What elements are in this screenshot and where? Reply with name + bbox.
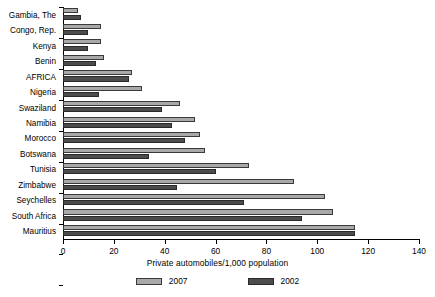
bar-2007: [63, 225, 355, 230]
bar-row: Kenya: [63, 38, 419, 53]
bar-row: Mauritius: [63, 224, 419, 239]
x-axis-tick-label: 100: [310, 246, 324, 256]
category-label: Mauritius: [23, 227, 56, 236]
category-label: Morocco: [25, 134, 56, 143]
bar-2002: [63, 92, 99, 97]
category-label: Namibia: [26, 118, 56, 127]
category-label: Nigeria: [30, 88, 56, 97]
bar-2002: [63, 30, 88, 35]
category-label: Zimbabwe: [18, 180, 56, 189]
bar-row: Seychelles: [63, 193, 419, 208]
x-axis-tick: [266, 239, 267, 244]
x-axis-tick: [317, 239, 318, 244]
x-axis-tick-label: 40: [160, 246, 169, 256]
category-label: Botswana: [20, 149, 56, 158]
bar-2002: [63, 123, 172, 128]
bar-chart: Gambia, TheCongo, Rep.KenyaBeninAFRICANi…: [0, 0, 435, 297]
bar-2002: [63, 61, 96, 66]
bar-2007: [63, 163, 249, 168]
bar-2002: [63, 15, 81, 20]
bar-2007: [63, 8, 78, 13]
bar-2007: [63, 117, 195, 122]
category-label: Kenya: [33, 41, 56, 50]
x-axis-tick-label: 140: [412, 246, 426, 256]
bar-row: Morocco: [63, 131, 419, 146]
bar-2007: [63, 209, 333, 214]
bar-2002: [63, 216, 302, 221]
bar-2007: [63, 179, 294, 184]
x-axis-tick: [114, 239, 115, 244]
bar-2007: [63, 194, 325, 199]
bar-2002: [63, 138, 185, 143]
bar-2002: [63, 107, 162, 112]
bar-row: AFRICA: [63, 69, 419, 84]
x-axis-tick-label: 120: [361, 246, 375, 256]
bar-row: Gambia, The: [63, 7, 419, 22]
legend-label-2007: 2007: [169, 277, 188, 286]
legend-swatch-2002-icon: [248, 278, 274, 285]
x-axis-tick-label: 20: [109, 246, 118, 256]
legend-label-2002: 2002: [281, 277, 300, 286]
bar-row: South Africa: [63, 208, 419, 223]
category-label: AFRICA: [26, 72, 56, 81]
bar-2002: [63, 46, 88, 51]
bar-2007: [63, 24, 101, 29]
x-axis-tick: [216, 239, 217, 244]
x-axis-tick-label: 80: [262, 246, 271, 256]
bar-row: Namibia: [63, 115, 419, 130]
bar-2007: [63, 55, 104, 60]
bar-2002: [63, 200, 244, 205]
category-label: South Africa: [12, 211, 56, 220]
bar-row: Congo, Rep.: [63, 22, 419, 37]
x-axis-tick: [368, 239, 369, 244]
bar-2002: [63, 185, 177, 190]
bar-row: Benin: [63, 53, 419, 68]
bar-row: Zimbabwe: [63, 177, 419, 192]
x-axis-tick-label: 0: [61, 246, 66, 256]
category-label: Congo, Rep.: [10, 26, 56, 35]
bar-2007: [63, 70, 132, 75]
bar-2007: [63, 39, 101, 44]
bar-2007: [63, 101, 180, 106]
x-axis-tick: [419, 239, 420, 244]
chart-legend: 2007 2002: [0, 277, 435, 286]
category-label: Benin: [35, 57, 56, 66]
x-axis-title: Private automobiles/1,000 population: [0, 258, 435, 268]
bar-2002: [63, 231, 355, 236]
category-label: Tunisia: [30, 165, 56, 174]
category-label: Swaziland: [19, 103, 56, 112]
bar-row: Swaziland: [63, 100, 419, 115]
bar-2002: [63, 169, 216, 174]
bar-row: Botswana: [63, 146, 419, 161]
x-axis-tick-label: 60: [211, 246, 220, 256]
bar-2007: [63, 132, 200, 137]
plot-area: Gambia, TheCongo, Rep.KenyaBeninAFRICANi…: [63, 7, 419, 239]
bar-row: Nigeria: [63, 84, 419, 99]
category-label: Seychelles: [16, 196, 56, 205]
legend-item-2002: 2002: [248, 277, 300, 286]
bar-2007: [63, 86, 142, 91]
bar-2007: [63, 148, 205, 153]
bar-row: Tunisia: [63, 162, 419, 177]
legend-swatch-2007-icon: [136, 278, 162, 285]
category-label: Gambia, The: [9, 10, 56, 19]
bar-2002: [63, 154, 149, 159]
bar-2002: [63, 76, 129, 81]
legend-item-2007: 2007: [136, 277, 188, 286]
x-axis-tick: [165, 239, 166, 244]
x-axis-line: [63, 239, 420, 240]
x-axis-tick: [63, 239, 64, 244]
